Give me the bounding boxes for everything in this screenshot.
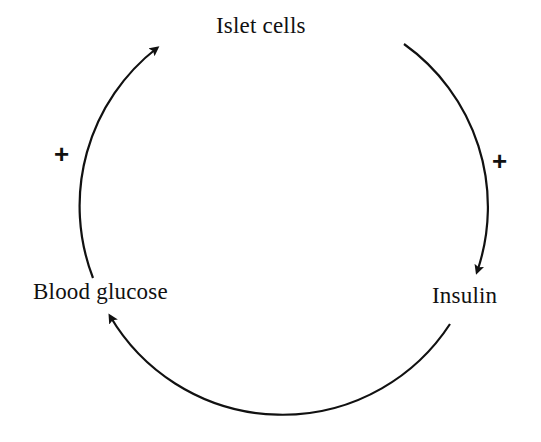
sign-positive-right: + xyxy=(492,148,507,174)
arrow-islet-to-insulin xyxy=(404,44,488,272)
sign-positive-left: + xyxy=(54,141,69,167)
node-blood-glucose: Blood glucose xyxy=(33,280,168,303)
cycle-arrows xyxy=(0,0,541,442)
node-insulin: Insulin xyxy=(432,284,497,307)
arrow-glucose-to-islet xyxy=(80,48,157,278)
arrow-insulin-to-glucose xyxy=(110,316,450,415)
feedback-loop-diagram: Islet cells Insulin Blood glucose + + xyxy=(0,0,541,442)
node-islet-cells: Islet cells xyxy=(216,14,306,37)
